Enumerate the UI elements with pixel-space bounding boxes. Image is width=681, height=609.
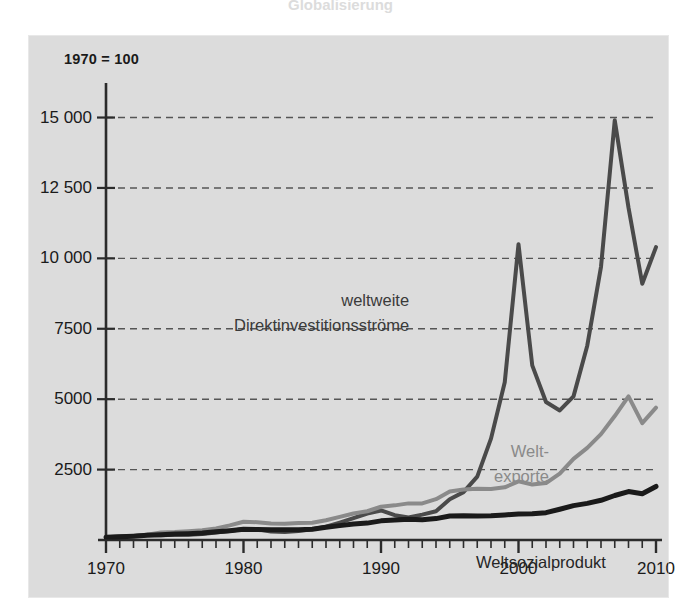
- y-tick-label: 12 500: [40, 178, 92, 198]
- y-tick-label: 2500: [54, 460, 92, 480]
- y-tick-label: 7500: [54, 319, 92, 339]
- series-label-gwp: Weltsozialprodukt: [476, 551, 606, 573]
- series-label-exports: Welt- exporte: [494, 439, 549, 489]
- x-tick-label: 1980: [225, 559, 263, 579]
- y-tick-label: 5000: [54, 389, 92, 409]
- series-label-exports-line2: exporte: [494, 464, 549, 489]
- series-label-fdi-line2: Direktinvestitionsströme: [234, 313, 409, 338]
- x-tick-label: 2010: [637, 559, 675, 579]
- x-tick-label: 1970: [87, 559, 125, 579]
- y-tick-label: 10 000: [40, 248, 92, 268]
- figure-title-remnant: Globalisierung: [0, 0, 681, 18]
- y-tick-label: 15 000: [40, 108, 92, 128]
- chart-figure: Globalisierung 1970 = 100 15 00012 50010…: [0, 0, 681, 609]
- series-label-fdi: weltweite Direktinvestitionsströme: [234, 288, 409, 338]
- chart-panel: 1970 = 100 15 00012 50010 00075005000250…: [28, 35, 669, 598]
- series-label-fdi-line1: weltweite: [234, 288, 409, 313]
- series-line: [106, 396, 656, 537]
- series-label-exports-line1: Welt-: [494, 439, 549, 464]
- x-tick-label: 1990: [362, 559, 400, 579]
